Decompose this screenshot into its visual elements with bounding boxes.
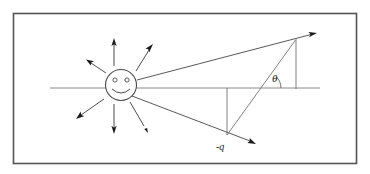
smiley-point-charge <box>106 70 137 101</box>
ray-down-right-arrow <box>130 102 148 133</box>
ray-down-arrow <box>111 104 116 134</box>
upper-field-vector <box>137 32 317 80</box>
charge-label: -q <box>216 141 224 152</box>
theta-label: θ <box>272 72 278 84</box>
smiley-head-circle <box>106 70 137 101</box>
figure-container: θ -q <box>0 0 370 174</box>
ray-up-right-arrow <box>136 44 153 71</box>
ray-down-left-arrow <box>76 99 104 119</box>
ray-up-arrow <box>111 38 116 66</box>
physics-diagram-canvas: θ -q <box>0 0 370 174</box>
ray-up-left-arrow <box>86 60 106 74</box>
